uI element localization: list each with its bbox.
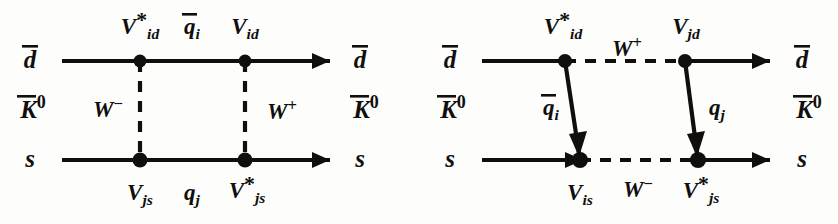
top-right-vertex-dot xyxy=(239,55,252,68)
top-line-arrowhead-icon xyxy=(312,53,330,69)
external-label-top-right: d xyxy=(794,45,810,73)
top-left-vertex-label: V*id xyxy=(544,8,583,42)
right-w-boson-label: W+ xyxy=(267,96,297,124)
external-label-top-right-text: d xyxy=(354,46,367,73)
left-internal-quark-label-text: qi xyxy=(543,95,560,122)
feynman-diagram-figure: d d s s K0 K0 V*id xyxy=(0,0,838,224)
external-label-top-left-text: d xyxy=(444,46,457,73)
left-internal-quark-label: qi xyxy=(541,94,560,123)
external-label-top-left-text: d xyxy=(24,46,37,73)
bottom-w-boson-label: W− xyxy=(623,174,653,202)
top-internal-quark-label-text: qi xyxy=(184,14,201,41)
meson-label-left: K0 xyxy=(437,92,466,123)
overline-bar xyxy=(352,45,368,48)
top-left-vertex-dot xyxy=(558,54,572,68)
top-right-vertex-label: Vjd xyxy=(672,14,700,41)
right-internal-quark-label: qj xyxy=(709,95,726,122)
top-right-vertex-label: Vid xyxy=(231,14,259,41)
external-label-top-right: d xyxy=(352,45,368,73)
bottom-right-vertex-dot xyxy=(690,152,706,168)
uncrossed-box-diagram-panel: d d s s K0 K0 V*id xyxy=(0,0,420,224)
top-w-boson-label: W+ xyxy=(612,33,642,61)
external-label-top-left: d xyxy=(442,45,458,73)
overline-bar xyxy=(182,13,197,16)
overline-bar xyxy=(17,95,36,98)
crossed-box-diagram-panel: d d s s K0 K0 V*id xyxy=(420,0,838,224)
overline-bar xyxy=(794,45,810,48)
top-line-arrowhead-icon xyxy=(752,53,770,69)
overline-bar xyxy=(437,95,456,98)
external-label-bottom-left: s xyxy=(444,145,455,172)
meson-label-right: K0 xyxy=(350,92,379,123)
bottom-internal-quark-label: qj xyxy=(184,180,201,207)
bottom-line-arrowhead-icon xyxy=(752,152,770,168)
bottom-right-vertex-label: V*js xyxy=(683,172,720,206)
overline-bar xyxy=(22,45,38,48)
external-label-bottom-right: s xyxy=(796,145,807,172)
overline-bar xyxy=(793,95,812,98)
bottom-left-vertex-label: Vjs xyxy=(127,180,153,207)
crossed-box-diagram-svg: d d s s K0 K0 V*id xyxy=(420,0,838,224)
bottom-right-vertex-label: V*js xyxy=(229,172,266,206)
external-label-bottom-left: s xyxy=(24,145,35,172)
top-left-vertex-dot xyxy=(134,55,147,68)
bottom-left-vertex-dot xyxy=(572,152,588,168)
overline-bar xyxy=(541,94,556,97)
uncrossed-box-diagram-svg: d d s s K0 K0 V*id xyxy=(0,0,420,224)
external-label-bottom-right: s xyxy=(354,145,365,172)
left-w-boson-label: W− xyxy=(93,94,123,122)
top-internal-quark-label: qi xyxy=(182,13,201,42)
meson-label-left: K0 xyxy=(17,92,46,123)
overline-bar xyxy=(442,45,458,48)
bottom-left-vertex-label: Vis xyxy=(567,180,593,207)
bottom-left-vertex-dot xyxy=(133,153,148,168)
bottom-line-arrowhead-icon xyxy=(312,152,330,168)
top-right-vertex-dot xyxy=(678,54,692,68)
bottom-right-vertex-dot xyxy=(238,153,253,168)
external-label-top-right-text: d xyxy=(796,46,809,73)
external-label-top-left: d xyxy=(22,45,38,73)
overline-bar xyxy=(350,95,369,98)
top-left-vertex-label: V*id xyxy=(121,8,160,42)
meson-label-right: K0 xyxy=(793,92,822,123)
